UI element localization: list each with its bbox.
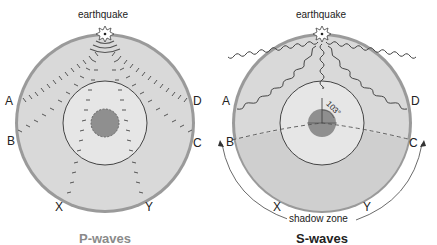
s-waves-title: S-waves (296, 232, 348, 245)
p-station-d: D (193, 95, 202, 107)
p-earthquake-label: earthquake (78, 10, 128, 20)
s-station-x: X (273, 201, 281, 213)
p-station-a: A (5, 95, 13, 107)
s-station-b: B (226, 136, 234, 148)
shadow-zone-label: shadow zone (287, 214, 350, 224)
earthquake-star-icon (96, 26, 114, 42)
s-station-a: A (222, 95, 230, 107)
p-wave-earth (15, 26, 195, 213)
s-earthquake-label: earthquake (296, 10, 346, 20)
p-station-y: Y (145, 201, 153, 213)
p-station-b: B (7, 135, 15, 147)
earthquake-star-icon (313, 26, 331, 42)
s-station-c: C (409, 137, 418, 149)
s-station-y: Y (363, 201, 371, 213)
s-wave-earth (218, 26, 426, 220)
inner-core (91, 109, 119, 137)
p-station-c: C (193, 137, 202, 149)
seismic-wave-diagram (0, 0, 437, 245)
p-waves-title: P-waves (79, 232, 131, 245)
s-station-d: D (411, 95, 420, 107)
p-station-x: X (55, 201, 63, 213)
